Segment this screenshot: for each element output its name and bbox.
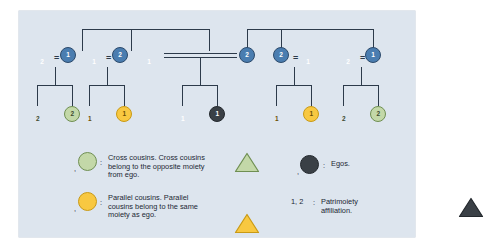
child-drop-4a [276,85,277,106]
circle-icon: 2 [112,47,128,63]
triangle-icon [273,197,488,218]
node-label: 1 [215,111,219,118]
child-drop-3a [182,85,183,106]
circle-icon: 1 [303,106,319,122]
node-label: 1 [371,52,375,59]
child-drop-2a [89,85,90,106]
descent-line-1 [55,67,56,86]
circle-icon: 1 [116,106,132,122]
descent-line-2 [107,67,108,86]
legend-comma: , [74,164,76,173]
child-bar-5 [343,85,379,86]
child-drop-1b [72,85,73,106]
child-bar-2 [89,85,125,86]
sibling-drop-left-3 [209,29,210,51]
circle-icon: 1 [60,47,76,63]
child-drop-2b [124,85,125,106]
child-bar-1 [37,85,73,86]
circle-icon [78,152,97,171]
node-label: 2 [342,116,346,123]
legend-entry-parallel-cousins: , : Parallel cousins. Parallel cousins b… [19,32,415,53]
legend-colon: : [313,198,315,207]
central-marriage-line-top [164,53,237,54]
circle-icon: 1 [209,106,225,122]
node-label: 2 [118,52,122,59]
node-label: 1 [66,52,70,59]
legend-comma: , [74,204,76,213]
legend-text-parallel-cousins: Parallel cousins. Parallel cousins belon… [108,194,198,220]
child-drop-1a [37,85,38,106]
node-label: 2 [36,116,40,123]
marriage-equals-3: = [293,54,298,63]
circle-icon: 2 [273,47,289,63]
child-bar-4 [276,85,312,86]
child-drop-5b [378,85,379,106]
legend-colon: : [100,158,102,167]
node-label: 2 [279,52,283,59]
legend-colon: : [100,198,102,207]
circle-icon [78,192,97,211]
child-drop-5a [343,85,344,106]
legend-text-egos: Egos. [331,160,350,169]
node-label: 1 [275,116,279,123]
descent-line-4 [294,67,295,86]
marriage-equals-1: = [54,54,59,63]
descent-line-3 [200,58,201,86]
node-label: 1 [309,111,313,118]
child-drop-4b [311,85,312,106]
kinship-diagram-panel: 2 = 1 1 = 2 1 2 2 [19,11,415,237]
circle-icon: 1 [365,47,381,63]
legend-text-cross-cousins: Cross cousins. Cross cousins belong to t… [108,154,205,180]
circle-icon: 2 [239,47,255,63]
child-drop-3b [217,85,218,106]
circle-icon [300,155,319,174]
sibling-drop-left-1 [82,29,83,51]
marriage-equals-2: = [106,54,111,63]
legend-text-patrimoiety: Patrimoiety affiliation. [321,198,358,215]
sibling-drop-left-2 [131,29,132,51]
node-label: 1 [88,116,92,123]
circle-icon: 2 [64,106,80,122]
legend-key-patrimoiety: 1, 2 [291,198,303,207]
node-label: 2 [70,111,74,118]
legend-comma: , [297,167,299,176]
node-label: 1 [122,111,126,118]
descent-line-5 [361,67,362,86]
sibling-bar-left [82,29,210,30]
legend-colon: : [323,161,325,170]
node-label: 2 [376,111,380,118]
node-label: 1 [181,116,185,123]
child-bar-3 [182,85,218,86]
node-label: 2 [245,52,249,59]
circle-icon: 2 [370,106,386,122]
sibling-bar-right [247,29,374,30]
